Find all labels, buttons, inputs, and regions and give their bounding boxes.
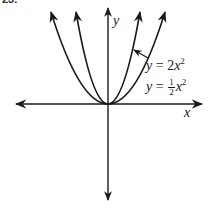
equation-label-two-x-squared: y = 2x2 — [146, 57, 185, 73]
y-axis-label: y — [113, 14, 119, 28]
x-axis-label: x — [184, 106, 190, 120]
eq2-exponent: 2 — [182, 77, 187, 87]
equation-label-half-x-squared: y = 12x2 — [146, 78, 186, 97]
eq2-fraction: 12 — [168, 78, 175, 97]
problem-number: 23. — [2, 0, 17, 5]
eq1-exponent: 2 — [180, 56, 185, 66]
graph-canvas — [0, 0, 216, 208]
eq1-equals: = — [156, 58, 164, 73]
eq2-lhs: y — [146, 79, 152, 94]
eq2-equals: = — [156, 79, 164, 94]
eq2-denominator: 2 — [168, 88, 175, 97]
eq1-lhs: y — [146, 58, 152, 73]
parabola-diagram: 23. y x y = 2x2 y = 12x2 — [0, 0, 216, 208]
